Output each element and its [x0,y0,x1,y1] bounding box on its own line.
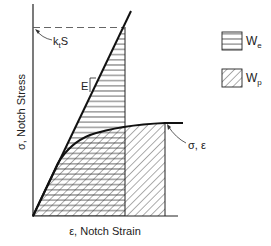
notch-stress-strain-diagram: ktS E σ, ε ε, Notch Strain σ, Notch Stre… [0,0,271,246]
kts-label: ktS [53,35,68,50]
curve-point-label: σ, ε [188,139,206,151]
legend-item-we-label: We [246,34,262,50]
curve-point-leader [168,126,186,143]
modulus-label: E [81,80,88,92]
legend-item-wp-label: Wp [246,71,262,87]
plastic-energy-region-wp [33,123,165,216]
x-axis-label: ε, Notch Strain [69,225,141,237]
legend-item-wp-swatch [222,69,242,87]
legend-item-we-swatch [222,32,242,50]
y-axis-label: σ, Notch Stress [15,74,27,150]
